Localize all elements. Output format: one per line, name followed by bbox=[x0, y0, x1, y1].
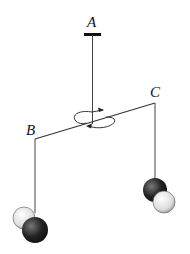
dark-sphere-left bbox=[22, 217, 48, 243]
svg-text:A: A bbox=[86, 14, 97, 30]
crossbar bbox=[35, 103, 155, 139]
label-a: A bbox=[86, 14, 97, 30]
light-sphere-right bbox=[153, 191, 175, 213]
svg-text:B: B bbox=[26, 122, 35, 138]
torsion-balance-diagram: A C B bbox=[0, 0, 190, 254]
label-b: B bbox=[26, 122, 35, 138]
svg-text:C: C bbox=[150, 84, 161, 100]
label-c: C bbox=[150, 84, 161, 100]
